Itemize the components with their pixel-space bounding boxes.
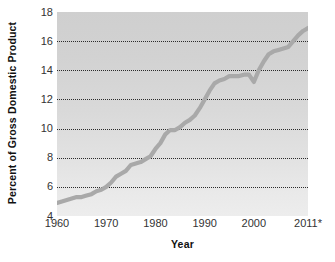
y-tick-label: 18 [26, 7, 53, 18]
data-series-line [57, 12, 308, 216]
x-axis-tick-labels: 196019701980199020002011* [0, 218, 335, 234]
y-tick-label: 10 [26, 123, 53, 134]
y-tick-label: 12 [26, 94, 53, 105]
y-tick-label: 16 [26, 36, 53, 47]
y-tick-label: 8 [26, 152, 53, 163]
x-axis-title: Year [57, 238, 308, 250]
plot-area [57, 12, 308, 216]
y-axis-title: Percent of Gross Domestic Product [0, 0, 24, 225]
x-tick-label: 1990 [192, 218, 216, 229]
y-tick-label: 6 [26, 181, 53, 192]
chart-figure: Percent of Gross Domestic Product 468101… [0, 0, 335, 262]
y-tick-label: 14 [26, 65, 53, 76]
x-tick-label: 1960 [45, 218, 69, 229]
x-tick-label: 1980 [143, 218, 167, 229]
x-tick-label: 1970 [94, 218, 118, 229]
x-tick-label: 2000 [242, 218, 266, 229]
x-tick-label: 2011* [294, 218, 322, 229]
y-axis-title-text: Percent of Gross Domestic Product [6, 21, 18, 203]
health-spending-line [57, 28, 308, 203]
